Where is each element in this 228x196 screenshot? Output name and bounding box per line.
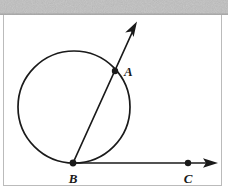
point-a-label: A — [123, 64, 133, 79]
scan-band — [0, 0, 228, 15]
geometry-figure: A B C — [0, 0, 228, 196]
point-b-label: B — [68, 171, 78, 186]
point-b-dot — [70, 160, 77, 167]
page-background — [0, 0, 228, 196]
point-c-dot — [185, 160, 191, 166]
point-c-label: C — [184, 171, 193, 186]
point-a-dot — [112, 68, 118, 74]
figure-canvas: A B C — [0, 0, 228, 196]
